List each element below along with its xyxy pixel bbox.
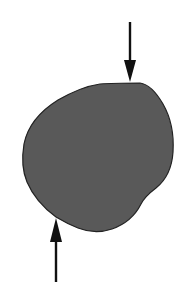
diagram-canvas	[0, 0, 193, 308]
arrow-up-icon	[50, 218, 62, 242]
compression-diagram	[0, 0, 193, 308]
top-force-arrow	[124, 22, 136, 82]
bottom-force-arrow	[50, 218, 62, 282]
irregular-body-shape	[23, 83, 173, 232]
arrow-down-icon	[124, 60, 136, 82]
